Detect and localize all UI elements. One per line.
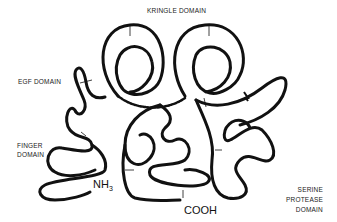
c-terminus-label: COOH [184, 204, 217, 216]
protein-domain-diagram: KRINGLE DOMAIN EGF DOMAIN FINGER DOMAIN … [0, 0, 337, 222]
finger-loop [48, 108, 95, 175]
egf-loop [75, 68, 105, 114]
kringle-domain-label: KRINGLE DOMAIN [147, 6, 206, 15]
serine-domain-label-line1: SERINE [298, 185, 323, 194]
finger-domain-label-line1: FINGER [17, 141, 43, 150]
kringle-1-loop [103, 25, 163, 96]
serine-domain-label-line2: PROTEASE [286, 195, 323, 204]
egf-domain-label: EGF DOMAIN [18, 77, 61, 86]
polypeptide-chain [0, 0, 337, 222]
n-terminus-label: NH3 [93, 178, 113, 192]
serine-domain-label-line3: DOMAIN [296, 205, 323, 214]
finger-domain-label-line2: DOMAIN [17, 150, 44, 159]
